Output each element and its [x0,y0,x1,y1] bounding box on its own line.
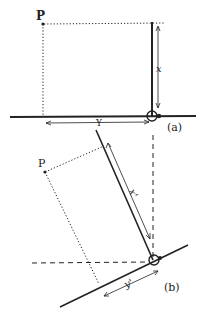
rod-b [96,130,153,260]
label-y-b: y' [121,277,134,291]
point-p-b [43,170,46,173]
dotted-left-b [45,172,99,284]
pivot-dot-b [158,256,162,260]
label-panel-b: (b) [164,281,180,294]
dotted-top-a [44,23,164,24]
dotted-top-b [45,146,104,172]
label-p-a: P [36,9,45,23]
baseline-a [10,116,196,117]
figure-a: P x Y (a) [10,9,196,134]
label-x-a: x [156,63,162,74]
dashed-horizontal-b [32,262,150,263]
diagram-canvas: P x Y (a) P x' y' (b) [0,0,203,325]
label-panel-a: (a) [167,121,182,134]
figure-b: P x' y' (b) [32,130,188,307]
pivot-dot-a [157,114,161,118]
label-x-b: x' [127,187,140,199]
label-y-a: Y [95,118,103,128]
label-p-b: P [38,157,46,170]
baseline-b [60,245,188,307]
